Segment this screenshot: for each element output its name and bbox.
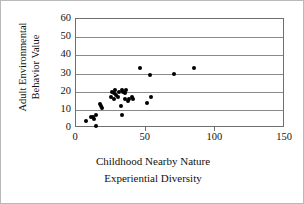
data-point [131, 97, 135, 101]
y-tick-label-40: 40 [51, 49, 71, 60]
data-point [145, 101, 149, 105]
gridline-y-20 [76, 92, 283, 93]
data-point [120, 113, 124, 117]
data-point [138, 66, 142, 70]
scatter-plot-figure: Adult Environmental Behavior Value 01020… [0, 0, 304, 204]
data-point [94, 124, 98, 128]
data-point [123, 91, 127, 95]
data-point [92, 117, 96, 121]
data-point [172, 72, 176, 76]
y-tick-label-20: 20 [51, 85, 71, 96]
data-point [119, 104, 123, 108]
y-axis-label-line-1: Adult Environmental [16, 23, 29, 112]
gridline-y-40 [76, 55, 283, 56]
data-point [94, 113, 98, 117]
y-axis-label: Adult Environmental Behavior Value [1, 1, 57, 133]
x-tick-mark-50 [145, 127, 146, 131]
y-tick-label-50: 50 [51, 31, 71, 42]
data-point [124, 88, 128, 92]
x-tick-label-150: 150 [276, 132, 292, 143]
x-tick-label-0: 0 [72, 132, 77, 143]
y-axis-label-line-2: Behavior Value [29, 23, 42, 112]
x-tick-label-100: 100 [206, 132, 222, 143]
data-point [112, 97, 116, 101]
data-point [149, 95, 153, 99]
data-point [148, 73, 152, 77]
y-tick-label-10: 10 [51, 104, 71, 115]
x-tick-mark-100 [214, 127, 215, 131]
data-point [116, 95, 120, 99]
gridline-y-10 [76, 110, 283, 111]
y-tick-label-30: 30 [51, 67, 71, 78]
gridline-y-50 [76, 37, 283, 38]
plot-area [75, 18, 284, 127]
data-point [84, 119, 88, 123]
y-tick-label-60: 60 [51, 13, 71, 24]
x-axis-label: Childhood Nearby Nature Experiential Div… [1, 153, 304, 187]
x-axis-label-line-1: Childhood Nearby Nature [1, 153, 304, 170]
x-axis-label-line-2: Experiential Diversity [1, 170, 304, 187]
data-point [192, 66, 196, 70]
y-tick-label-0: 0 [51, 122, 71, 133]
gridline-y-30 [76, 74, 283, 75]
x-tick-label-50: 50 [139, 132, 150, 143]
